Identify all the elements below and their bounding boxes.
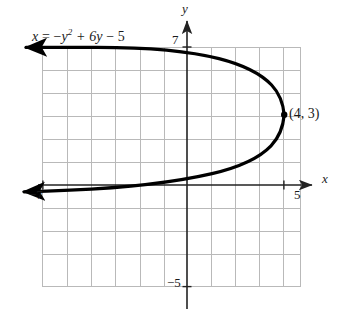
grid-lines [43, 47, 300, 287]
x-axis-label: x [322, 172, 328, 185]
equation-constant: 5 [114, 29, 125, 44]
y-axis-label: y [182, 2, 188, 15]
equation-label: x = −y2 + 6y − 5 [32, 28, 125, 44]
parabola-curve [24, 47, 287, 192]
x-tick-label-5: 5 [294, 188, 301, 201]
graph-canvas [0, 0, 341, 309]
vertex-point [281, 112, 287, 118]
tick-marks [43, 47, 284, 287]
equation-plus-term: + 6y [72, 29, 106, 44]
parabola-figure: x = −y2 + 6y − 5 y x 7 −5 5 −7 (4, 3) [0, 0, 341, 309]
equation-minus: − [54, 29, 62, 44]
parabola-lower-branch [24, 115, 284, 192]
y-tick-label-neg5: −5 [167, 276, 181, 289]
x-tick-label-neg7: −7 [29, 188, 43, 201]
vertex-coordinate-label: (4, 3) [289, 107, 319, 121]
parabola-upper-branch [26, 47, 284, 115]
y-tick-label-7: 7 [172, 33, 179, 46]
axis-lines [38, 21, 312, 309]
equation-equals: = [38, 29, 53, 44]
